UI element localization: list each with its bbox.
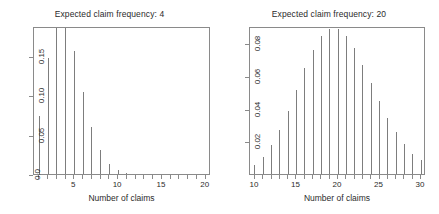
x-tick-minor <box>271 175 272 179</box>
stem-bar <box>109 164 110 174</box>
stem-bar <box>387 118 388 174</box>
x-tick-minor <box>91 175 92 179</box>
x-tick-minor <box>403 175 404 179</box>
x-tick-major <box>205 175 206 179</box>
x-tick-minor <box>126 175 127 179</box>
x-tick-minor <box>387 175 388 179</box>
poisson-two-panel-figure: Expected claim frequency: 4 51015200.00.… <box>0 0 439 214</box>
stem-bar <box>304 68 305 174</box>
y-tick-label: 0.06 <box>253 69 262 85</box>
stem-bar <box>412 154 413 174</box>
y-tick-label: 0.10 <box>37 88 46 104</box>
x-tick-major <box>73 175 74 179</box>
stem-bar <box>313 50 314 174</box>
x-tick-minor <box>170 175 171 179</box>
stem-bar <box>263 157 264 174</box>
x-tick-major <box>379 175 380 179</box>
x-tick-major <box>254 175 255 179</box>
stem-bar <box>118 170 119 174</box>
x-tick-minor <box>178 175 179 179</box>
x-tick-minor <box>279 175 280 179</box>
x-tick-major <box>295 175 296 179</box>
y-tick <box>29 57 33 58</box>
x-tick-minor <box>262 175 263 179</box>
y-tick <box>29 96 33 97</box>
stem-bar <box>74 51 75 174</box>
y-tick-label: 0.15 <box>37 48 46 64</box>
stem-bar <box>279 130 280 174</box>
x-tick-minor <box>412 175 413 179</box>
x-tick-minor <box>345 175 346 179</box>
x-tick-minor <box>82 175 83 179</box>
stem-bar <box>404 144 405 174</box>
y-tick-label: 0.08 <box>253 36 262 52</box>
stem-bar <box>329 29 330 174</box>
x-tick-major <box>337 175 338 179</box>
x-tick-minor <box>304 175 305 179</box>
y-tick <box>245 77 249 78</box>
y-tick <box>29 136 33 137</box>
y-tick <box>245 110 249 111</box>
x-tick-minor <box>329 175 330 179</box>
stem-bar <box>126 173 127 174</box>
x-tick-label: 20 <box>333 180 342 189</box>
panel-expected-frequency-4: Expected claim frequency: 4 51015200.00.… <box>0 0 219 214</box>
x-axis-title-right: Number of claims <box>249 193 425 203</box>
stem-bar <box>39 116 40 174</box>
x-tick-label: 10 <box>113 180 122 189</box>
plot-frame-right <box>249 27 425 175</box>
stem-bar <box>288 111 289 174</box>
x-tick-minor <box>152 175 153 179</box>
y-tick-label: 0.05 <box>37 127 46 143</box>
x-tick-minor <box>47 175 48 179</box>
x-tick-label: 20 <box>200 180 209 189</box>
panel-title-left: Expected claim frequency: 4 <box>0 9 219 19</box>
x-tick-label: 30 <box>416 180 425 189</box>
stem-bar <box>56 28 57 174</box>
plot-frame-left <box>33 27 210 175</box>
x-tick-minor <box>395 175 396 179</box>
stem-bar <box>65 28 66 174</box>
panel-title-right: Expected claim frequency: 20 <box>219 9 439 19</box>
stem-bar <box>100 150 101 174</box>
x-tick-minor <box>362 175 363 179</box>
x-tick-minor <box>196 175 197 179</box>
x-tick-minor <box>187 175 188 179</box>
plot-area-left <box>34 28 209 174</box>
stem-bar <box>271 145 272 174</box>
stem-bar <box>371 83 372 174</box>
y-tick <box>245 142 249 143</box>
x-tick-minor <box>287 175 288 179</box>
panel-expected-frequency-20: Expected claim frequency: 20 10152025300… <box>219 0 439 214</box>
stem-bar <box>362 65 363 174</box>
x-tick-label: 25 <box>374 180 383 189</box>
stem-bar <box>354 48 355 174</box>
stem-bar <box>83 92 84 174</box>
x-tick-major <box>161 175 162 179</box>
x-tick-label: 5 <box>71 180 75 189</box>
stem-bar <box>91 127 92 174</box>
x-tick-minor <box>135 175 136 179</box>
x-tick-label: 15 <box>156 180 165 189</box>
stem-bar <box>296 90 297 174</box>
x-tick-minor <box>143 175 144 179</box>
x-tick-minor <box>354 175 355 179</box>
stem-bar <box>321 36 322 174</box>
y-tick <box>245 44 249 45</box>
stem-bar <box>48 58 49 174</box>
x-tick-minor <box>65 175 66 179</box>
stem-bar <box>254 165 255 174</box>
x-tick-minor <box>108 175 109 179</box>
x-tick-minor <box>370 175 371 179</box>
x-axis-title-left: Number of claims <box>33 193 210 203</box>
x-tick-major <box>420 175 421 179</box>
plot-area-right <box>250 28 424 174</box>
x-tick-minor <box>100 175 101 179</box>
stem-bar <box>379 101 380 174</box>
x-tick-minor <box>56 175 57 179</box>
stem-bar <box>346 36 347 174</box>
x-tick-major <box>117 175 118 179</box>
stem-bar <box>338 29 339 174</box>
y-tick-label: 0.02 <box>253 134 262 150</box>
y-tick-label: 0.0 <box>33 169 42 180</box>
